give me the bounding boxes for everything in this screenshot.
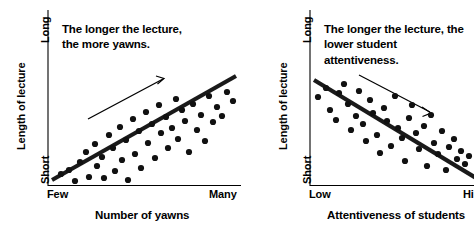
chart-right-x-axis-title: Attentiveness of students — [327, 209, 465, 221]
chart-lecture-vs-yawns: The longer the lecture, the more yawns. … — [0, 0, 262, 237]
chart-right-y-axis-title: Length of lecture — [278, 62, 290, 150]
chart-left-y-top-label: Long — [40, 17, 52, 43]
chart-right-x-right-label: Hi — [463, 189, 474, 201]
chart-left-y-axis-title: Length of lecture — [16, 62, 28, 150]
chart-right-caption: The longer the lecture, the lower studen… — [324, 22, 474, 68]
chart-left-x-right-label: Many — [209, 189, 237, 201]
chart-left-x-left-label: Few — [47, 189, 68, 201]
chart-right-y-top-label: Long — [302, 17, 314, 43]
chart-left-caption: The longer the lecture, the more yawns. — [62, 22, 182, 53]
chart-left-x-axis-title: Number of yawns — [95, 209, 189, 221]
chart-right-y-bottom-label: Short — [302, 156, 314, 184]
annotation-arrow-left — [88, 76, 164, 119]
scatter-points-left — [58, 89, 236, 184]
chart-right-x-left-label: Low — [309, 189, 331, 201]
figure-canvas: The longer the lecture, the more yawns. … — [0, 0, 474, 237]
chart-left-y-bottom-label: Short — [40, 156, 52, 184]
chart-lecture-vs-attentiveness: The longer the lecture, the lower studen… — [262, 0, 474, 237]
